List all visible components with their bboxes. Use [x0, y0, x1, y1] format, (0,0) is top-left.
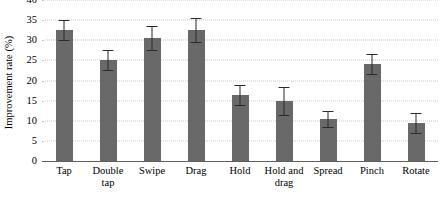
x-tick-label: Pinch [350, 163, 394, 203]
error-bar [108, 50, 109, 70]
error-bar-cap-upper [367, 54, 378, 55]
error-bar [196, 18, 197, 42]
bar [408, 123, 425, 161]
bar-slot [218, 0, 262, 161]
error-bar [284, 87, 285, 115]
y-tick-label: 10 [27, 116, 38, 126]
bar-slot [262, 0, 306, 161]
error-bar-cap-upper [279, 87, 290, 88]
x-tick-label: Drag [174, 163, 218, 203]
error-bar [328, 111, 329, 127]
x-tick-label-line: Spread [306, 165, 350, 177]
x-tick-label: Spread [306, 163, 350, 203]
error-bar-cap-lower [411, 133, 422, 134]
bar [276, 101, 293, 161]
y-axis-title-wrapper: Improvement rate (%) [0, 0, 18, 165]
y-tick-label: 30 [27, 35, 38, 45]
y-tick-label: 25 [27, 55, 38, 65]
error-bar-cap-upper [235, 85, 246, 86]
error-bar-cap-lower [235, 105, 246, 106]
bar-slot [130, 0, 174, 161]
error-bar-cap-lower [279, 115, 290, 116]
x-tick-label-line: drag [262, 177, 306, 189]
bar [232, 95, 249, 161]
bar-slot [86, 0, 130, 161]
y-axis-title: Improvement rate (%) [4, 36, 15, 129]
y-tick-label: 35 [27, 15, 38, 25]
error-bar-cap-upper [59, 20, 70, 21]
x-tick-label-line: Hold [218, 165, 262, 177]
error-bar-cap-upper [191, 18, 202, 19]
plot-area [42, 0, 438, 162]
error-bar-cap-upper [323, 111, 334, 112]
error-bar-cap-upper [411, 113, 422, 114]
y-tick-label: 20 [27, 76, 38, 86]
x-tick-label: Swipe [130, 163, 174, 203]
y-axis-tick-labels: 0510152025303540 [18, 0, 40, 165]
x-tick-label-line: Double [86, 165, 130, 177]
bar [100, 60, 117, 161]
bar [144, 38, 161, 161]
bar-slot [174, 0, 218, 161]
bar-slot [394, 0, 438, 161]
bar-slot [350, 0, 394, 161]
bar-series [42, 0, 438, 161]
x-tick-label: Tap [42, 163, 86, 203]
x-tick-label-line: Pinch [350, 165, 394, 177]
error-bar [372, 54, 373, 74]
bar-slot [306, 0, 350, 161]
x-tick-label-line: Drag [174, 165, 218, 177]
x-tick-label-line: Swipe [130, 165, 174, 177]
x-tick-label-line: tap [86, 177, 130, 189]
x-tick-label: Hold [218, 163, 262, 203]
error-bar-cap-lower [323, 127, 334, 128]
error-bar [416, 113, 417, 133]
x-axis-tick-labels: TapDoubletapSwipeDragHoldHold anddragSpr… [42, 163, 438, 203]
y-tick-label: 0 [32, 156, 37, 166]
x-tick-label: Doubletap [86, 163, 130, 203]
bar [320, 119, 337, 161]
error-bar-cap-lower [191, 42, 202, 43]
error-bar-cap-lower [103, 70, 114, 71]
x-tick-label-line: Rotate [394, 165, 438, 177]
error-bar [64, 20, 65, 40]
error-bar [240, 85, 241, 105]
bar [364, 64, 381, 161]
error-bar-cap-lower [367, 74, 378, 75]
error-bar-cap-lower [147, 50, 158, 51]
x-tick-label-line: Hold and [262, 165, 306, 177]
x-axis-line [42, 161, 438, 162]
x-tick-label-line: Tap [42, 165, 86, 177]
error-bar-cap-upper [147, 26, 158, 27]
error-bar-cap-upper [103, 50, 114, 51]
bar-slot [42, 0, 86, 161]
y-tick-label: 15 [27, 96, 38, 106]
y-tick-label: 40 [27, 0, 38, 5]
bar-chart-figure: Improvement rate (%) 0510152025303540 Ta… [0, 0, 440, 203]
error-bar-cap-lower [59, 40, 70, 41]
bar [188, 30, 205, 161]
bar [56, 30, 73, 161]
y-tick-label: 5 [32, 136, 37, 146]
x-tick-label: Rotate [394, 163, 438, 203]
x-tick-label: Hold anddrag [262, 163, 306, 203]
error-bar [152, 26, 153, 50]
